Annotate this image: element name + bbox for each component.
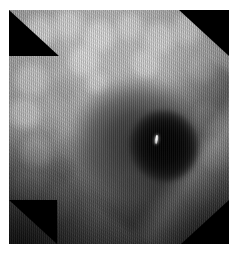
corner-mask-bottom-left [9,200,57,244]
image-viewer [0,0,239,259]
corner-mask-top-left [9,10,59,56]
corner-mask-bottom-right [181,200,229,244]
corner-mask-top-right [179,10,229,56]
endoscopic-image [9,10,229,244]
